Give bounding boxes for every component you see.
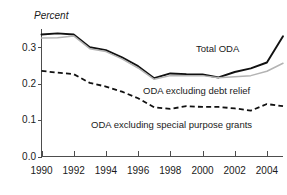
x-tick-label: 2000 (191, 165, 214, 176)
y-axis-title-group: Percent (34, 10, 70, 21)
y-tick-label: 0.3 (22, 42, 36, 53)
series-annotation-label: ODA excluding special purpose grants (91, 119, 252, 130)
series-annotation-label: Total ODA (196, 43, 240, 54)
x-tick-label: 2002 (224, 165, 247, 176)
x-tick-label: 1990 (30, 165, 53, 176)
x-tick-label: 1992 (63, 165, 86, 176)
series-line (42, 36, 284, 79)
y-tick-label: 0.2 (22, 78, 36, 89)
y-tick-label: 0.1 (22, 114, 36, 125)
y-tick-label: 0.0 (22, 151, 36, 162)
x-tick-label: 1994 (95, 165, 118, 176)
chart-container: Percent 0.00.10.20.3 1990199219941996199… (0, 0, 287, 195)
y-axis-title: Percent (34, 10, 70, 21)
tick-mark-group (38, 48, 268, 158)
series-annotation-label: ODA excluding debt relief (143, 85, 251, 96)
series-path-group (42, 33, 284, 110)
x-tick-label: 2004 (256, 165, 279, 176)
series-line (42, 33, 284, 78)
y-tick-label-group: 0.00.10.20.3 (22, 42, 36, 162)
x-tick-label-group: 19901992199419961998200020022004 (30, 165, 278, 176)
line-chart: Percent 0.00.10.20.3 1990199219941996199… (0, 0, 287, 195)
x-tick-label: 1998 (159, 165, 182, 176)
x-tick-label: 1996 (127, 165, 150, 176)
